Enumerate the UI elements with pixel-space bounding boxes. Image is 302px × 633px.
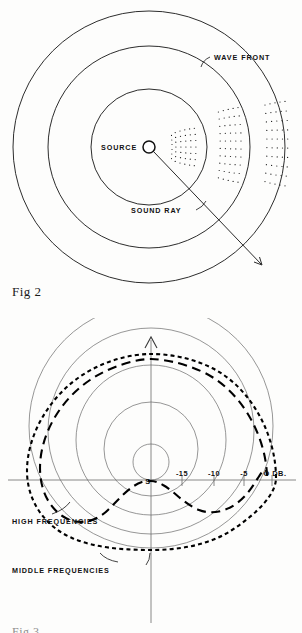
figure-2-caption: Fig 2: [12, 284, 42, 300]
wave-front-svg: WAVE FRONT SOURCE SOUND RAY: [0, 0, 302, 320]
label-source: SOURCE: [101, 143, 137, 152]
figure-wave-front: WAVE FRONT SOURCE SOUND RAY: [0, 0, 302, 320]
legend-leader-lines: [52, 502, 150, 565]
beam-band-inner: [171, 128, 197, 167]
sound-beam-stipple: [171, 101, 288, 187]
legend-high-frequencies: HIGH FREQUENCIES: [12, 517, 98, 526]
source-marker-icon: [143, 141, 155, 153]
figure-polar-response: S -15 -10 -5 O DB. HIGH FREQUENCIES MIDD…: [0, 318, 302, 633]
tick-label-center: S: [145, 477, 150, 486]
leader-lines: [196, 57, 210, 210]
label-sound-ray: SOUND RAY: [131, 206, 182, 215]
tick-label-minus10: -10: [208, 469, 220, 478]
leader-middle-frequencies: [100, 553, 118, 562]
figure-3-caption: Fig 3: [12, 625, 40, 633]
illustration-page: WAVE FRONT SOURCE SOUND RAY Fig 2: [0, 0, 302, 633]
polar-plot-svg: S -15 -10 -5 O DB. HIGH FREQUENCIES MIDD…: [0, 318, 302, 633]
tick-label-minus15: -15: [176, 469, 188, 478]
label-wave-front: WAVE FRONT: [214, 53, 270, 62]
beam-band-middle: [218, 107, 242, 183]
tick-label-zero-db: O DB.: [263, 469, 286, 478]
curve-high-frequencies: [40, 359, 267, 522]
legend-middle-frequencies: MIDDLE FREQUENCIES: [12, 566, 110, 575]
leader-middle-frequencies-2: [146, 553, 150, 565]
tick-label-minus5: -5: [240, 469, 248, 478]
